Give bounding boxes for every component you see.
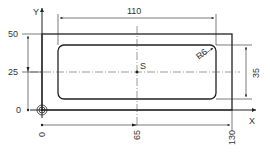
x-axis-label: X <box>249 116 255 126</box>
y-tick-label-25: 25 <box>8 67 18 77</box>
center-point <box>136 71 139 74</box>
radius-label: R6 <box>194 47 209 62</box>
y-tick-label-0: 0 <box>16 105 21 115</box>
y-dim-arrow-25 <box>27 67 30 72</box>
y-tick-label-50: 50 <box>8 29 18 39</box>
y-axis-label: Y <box>33 7 39 17</box>
x-dim-origin-dot <box>41 124 43 126</box>
x-tick-label-65: 65 <box>132 130 142 140</box>
x-tick-label-130: 130 <box>227 130 237 145</box>
x-dim-arrow-65 <box>132 124 137 127</box>
height-dim-label: 35 <box>251 68 261 78</box>
center-label: S <box>140 61 146 71</box>
origin-dot <box>41 109 44 112</box>
width-dim-label: 110 <box>127 6 141 16</box>
technical-drawing: Y X S 50 25 0 0 65 130 110 35 R6 <box>0 0 270 153</box>
y-dim-origin-dot <box>27 109 29 111</box>
x-tick-label-0: 0 <box>37 132 47 137</box>
